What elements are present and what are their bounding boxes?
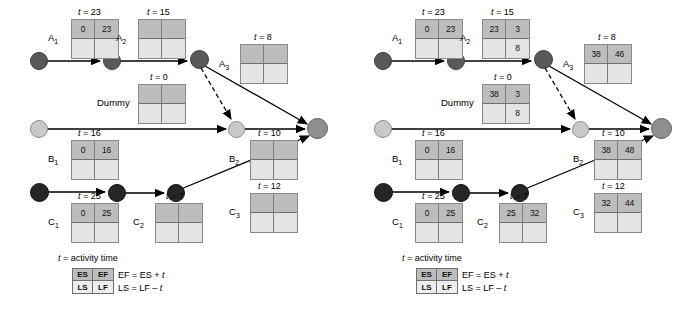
- activity-a2-es-cell: 23: [483, 20, 506, 39]
- activity-a3-ef-cell: [264, 45, 287, 64]
- activity-dummy-es-cell: 38: [483, 85, 506, 104]
- activity-dummy-name-label: Dummy: [97, 97, 130, 108]
- activity-a1-lf-cell: [439, 39, 462, 58]
- activity-c1-ls-cell: [416, 223, 439, 242]
- activity-b2-name-label: B2: [229, 153, 239, 166]
- activity-c3-es-ef-ls-lf-box: [250, 193, 298, 233]
- activity-c3-ef-cell: 44: [618, 194, 641, 213]
- activity-dummy-ef-cell: 3: [506, 85, 529, 104]
- activity-a2-ef-cell: 3: [506, 20, 529, 39]
- activity-c1-es-ef-ls-lf-box: 025: [71, 203, 119, 243]
- activity-dummy-ls-cell: [139, 104, 162, 123]
- edge-a2-b1-dummy: [545, 68, 575, 119]
- activity-a1-lf-cell: [95, 39, 118, 58]
- activity-b1-duration-label: t = 16: [78, 128, 101, 138]
- node-a-2: [190, 50, 209, 69]
- activity-b2-es-cell: [251, 141, 274, 160]
- activity-a2-es-ef-ls-lf-box: 2338: [482, 19, 530, 59]
- activity-a3-ls-cell: [241, 64, 264, 83]
- activity-a2-ef-cell: [162, 20, 185, 39]
- activity-c2-name-label: C2: [477, 216, 488, 229]
- node-c-start: [374, 183, 393, 202]
- node-a-2: [534, 50, 553, 69]
- activity-a1-name-label: A1: [48, 32, 58, 45]
- activity-a3-ls-cell: [585, 64, 608, 83]
- activity-c2-duration-label: t = 7: [166, 191, 184, 201]
- activity-b1-ls-cell: [72, 160, 95, 179]
- legend: t = activity timeESEFLSLFEF = ES + tLS =…: [58, 253, 118, 263]
- activity-c2-lf-cell: [179, 223, 202, 242]
- activity-c1-name-label: C1: [48, 216, 59, 229]
- activity-c3-duration-label: t = 12: [258, 181, 281, 191]
- activity-a3-duration-label: t = 8: [254, 32, 272, 42]
- activity-b2-ef-cell: [274, 141, 297, 160]
- activity-c3-es-cell: [251, 194, 274, 213]
- activity-b2-lf-cell: [618, 160, 641, 179]
- activity-a3-lf-cell: [608, 64, 631, 83]
- activity-a1-duration-label: t = 23: [422, 7, 445, 17]
- activity-a1-es-cell: 0: [72, 20, 95, 39]
- activity-c3-es-ef-ls-lf-box: 3244: [594, 193, 642, 233]
- activity-b1-name-label: B1: [48, 153, 58, 166]
- activity-c1-es-ef-ls-lf-box: 025: [415, 203, 463, 243]
- activity-dummy-duration-label: t = 0: [494, 72, 512, 82]
- activity-b2-duration-label: t = 10: [602, 128, 625, 138]
- node-b-start: [30, 120, 48, 138]
- activity-c2-es-ef-ls-lf-box: [155, 203, 203, 243]
- activity-c1-duration-label: t = 25: [78, 191, 101, 201]
- node-c-start: [30, 183, 49, 202]
- activity-a2-name-label: A2: [460, 32, 470, 45]
- legend-ef-cell: EF: [93, 269, 113, 281]
- activity-b2-es-cell: 38: [595, 141, 618, 160]
- activity-a1-name-label: A1: [392, 32, 402, 45]
- activity-c2-es-ef-ls-lf-box: 2532: [499, 203, 547, 243]
- activity-c3-lf-cell: [274, 213, 297, 232]
- legend-lf-cell: LF: [93, 281, 113, 293]
- legend-es-cell: ES: [417, 269, 437, 281]
- activity-a1-ef-cell: 23: [439, 20, 462, 39]
- activity-c3-ls-cell: [595, 213, 618, 232]
- activity-b1-es-cell: 0: [416, 141, 439, 160]
- activity-c1-duration-label: t = 25: [422, 191, 445, 201]
- legend: t = activity timeESEFLSLFEF = ES + tLS =…: [402, 253, 462, 263]
- activity-c2-ls-cell: [156, 223, 179, 242]
- activity-a3-es-cell: 38: [585, 45, 608, 64]
- activity-dummy-duration-label: t = 0: [150, 72, 168, 82]
- activity-a2-lf-cell: 8: [506, 39, 529, 58]
- legend-ef-cell: EF: [437, 269, 457, 281]
- activity-dummy-es-ef-ls-lf-box: 3838: [482, 84, 530, 124]
- activity-a3-lf-cell: [264, 64, 287, 83]
- activity-b2-ef-cell: 48: [618, 141, 641, 160]
- node-a-start: [30, 52, 48, 70]
- activity-b1-es-ef-ls-lf-box: 016: [415, 140, 463, 180]
- legend-box: ESEFLSLF: [72, 268, 114, 294]
- diagram-panel-left: t = 23A1023t = 15A2t = 8A3t = 0Dummyt = …: [0, 0, 344, 318]
- diagram-panel-right: t = 23A1023t = 15A22338t = 8A33846t = 0D…: [344, 0, 687, 318]
- legend-es-cell: ES: [73, 269, 93, 281]
- activity-a3-ef-cell: 46: [608, 45, 631, 64]
- activity-b2-ls-cell: [251, 160, 274, 179]
- activity-a2-ls-cell: [483, 39, 506, 58]
- activity-c2-duration-label: t = 7: [510, 191, 528, 201]
- activity-a1-es-ef-ls-lf-box: 023: [415, 19, 463, 59]
- activity-a1-ls-cell: [416, 39, 439, 58]
- activity-c3-ls-cell: [251, 213, 274, 232]
- legend-activity-time-note: t = activity time: [402, 253, 462, 263]
- activity-a3-duration-label: t = 8: [598, 32, 616, 42]
- activity-c2-ls-cell: [500, 223, 523, 242]
- activity-b2-ls-cell: [595, 160, 618, 179]
- activity-a2-name-label: A2: [116, 32, 126, 45]
- activity-b2-duration-label: t = 10: [258, 128, 281, 138]
- node-finish: [651, 118, 672, 139]
- activity-b1-es-ef-ls-lf-box: 016: [71, 140, 119, 180]
- node-c-1: [452, 184, 470, 202]
- activity-a1-es-ef-ls-lf-box: 023: [71, 19, 119, 59]
- activity-dummy-lf-cell: [162, 104, 185, 123]
- node-b-start: [374, 120, 392, 138]
- activity-a1-duration-label: t = 23: [78, 7, 101, 17]
- activity-c2-es-cell: 25: [500, 204, 523, 223]
- activity-dummy-lf-cell: 8: [506, 104, 529, 123]
- activity-c3-es-cell: 32: [595, 194, 618, 213]
- activity-b1-lf-cell: [439, 160, 462, 179]
- activity-b1-duration-label: t = 16: [422, 128, 445, 138]
